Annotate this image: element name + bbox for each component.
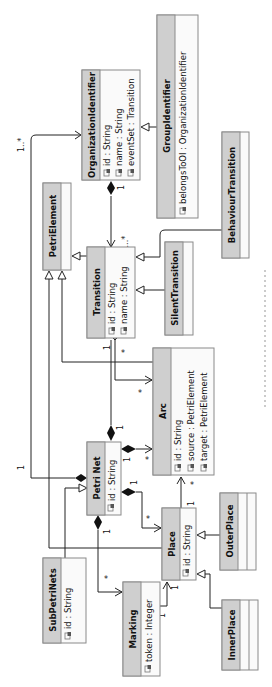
generalization-triangle [197,531,205,539]
mult-mk-pl-tgt: 1 [171,585,180,590]
class-sub-petri-nets[interactable]: SubPetriNets id : String [43,558,86,643]
composition-diamond [121,488,136,496]
ip-pl-generalization [205,574,222,608]
class-name: Place [167,531,177,557]
attribute: target : PetriElement [199,372,209,461]
attribute: name : String [114,108,124,166]
attribute: id : String [173,420,183,461]
attribute: eventSet : Transition [126,78,136,166]
attribute: id : String [102,125,112,166]
pn-mk-composition [98,530,122,592]
composition-diamond [107,425,115,441]
mult-pl-arc-src: 1 [187,501,196,506]
composition-diamond [121,445,136,453]
class-name: PetriElement [48,195,58,257]
tr-arc-association [115,338,152,380]
class-organization-identifier[interactable]: OrganizationIdentifier id : String name … [82,70,140,180]
attribute: name : String [119,266,129,324]
mult-pn-tr-src: 1 [116,425,125,430]
class-transition[interactable]: Transition id : String name : String [87,247,135,338]
class-outer-place[interactable]: OuterPlace [220,493,256,570]
attribute: id : String [182,525,192,566]
attribute: id : String [107,460,117,501]
attribute: token : Integer [144,599,154,662]
mult-oi-tr-src: 1 [117,185,126,190]
generalization-triangle [58,271,66,279]
attribute: id : String [63,588,73,629]
generalization-triangle [136,253,144,261]
class-name: InnerPlace [227,609,237,660]
mult-pn-mk-tgt: * [104,575,108,584]
generalization-triangle [197,570,205,578]
generalization-triangle [72,252,80,260]
class-silent-transition[interactable]: SilentTransition [165,242,193,335]
generalization-triangle [79,484,87,492]
attribute: belongsToOI : OrganizationIdentifier [178,51,188,204]
class-name: Transition [92,268,102,316]
composition-diamond [75,474,87,482]
mult-pn-arc-tgt: * [145,456,149,465]
mk-pl-association [160,582,167,606]
mult-pn-pl-tgt: * [146,515,150,524]
mult-pn-oi-tgt: 1..* [17,138,26,152]
class-name: OrganizationIdentifier [87,71,97,178]
class-petri-element[interactable]: PetriElement [43,183,71,270]
class-name: Arc [158,403,168,419]
mult-pn-arc-src: 1 [123,457,132,462]
attribute: id : String [107,283,117,324]
mult-tr-arc-tgt: * [138,389,142,398]
generalization-triangle [45,271,53,279]
class-petri-net[interactable]: Petri Net id : String [87,442,121,515]
mult-pn-pl-src: 1 [130,480,139,485]
class-arc[interactable]: Arc id : String source : PetriElement ta… [153,348,214,475]
mult-pn-mk-src: 1 [103,529,112,534]
generalization-triangle [141,123,149,131]
class-name: Marking [128,609,138,648]
class-group-identifier[interactable]: GroupIdentifier belongsToOI : Organizati… [157,15,198,218]
mult-pn-tr-tgt: * [121,349,125,358]
class-name: SubPetriNets [48,568,58,631]
class-name: Petri Net [92,456,102,499]
class-place[interactable]: Place id : String [162,508,196,580]
composition-diamond [94,515,102,530]
class-name: BehaviourTransition [227,147,237,243]
class-inner-place[interactable]: InnerPlace [222,600,258,670]
generalization-triangle [136,286,144,294]
mult-pn-oi-src: 1 [17,465,26,470]
class-name: OuterPlace [225,504,235,557]
mult-tr-arc-src: 1 [103,345,112,350]
uml-class-diagram: 1..* 1 1 1..* 1 * * 1 1 * 1 * * 1 1 * 1 … [0,0,272,687]
class-behaviour-transition[interactable]: BehaviourTransition [222,132,249,258]
class-name: SilentTransition [170,250,180,326]
attribute: source : PetriElement [186,369,196,461]
class-name: GroupIdentifier [162,78,172,152]
class-marking[interactable]: Marking token : Integer [123,582,160,676]
mult-pl-arc-tgt: * [190,481,194,490]
composition-diamond [107,181,115,195]
